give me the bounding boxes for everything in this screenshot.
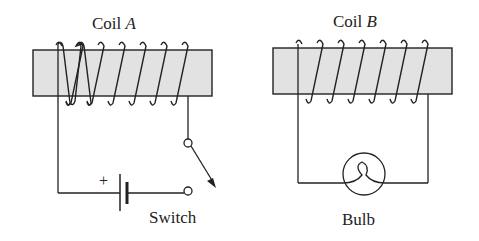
switch-arrow-head <box>207 178 216 188</box>
switch-label: Switch <box>149 208 196 228</box>
battery-plus-label: + <box>99 172 108 190</box>
bulb-circle <box>343 153 385 195</box>
coil-a-label: Coil A <box>92 14 136 34</box>
bulb-label: Bulb <box>342 210 375 230</box>
switch-lever <box>191 146 213 182</box>
switch-contact-bottom <box>184 187 192 195</box>
coil-b-label: Coil B <box>333 12 377 32</box>
switch-contact-top <box>184 139 192 147</box>
circuit-wiring <box>0 0 479 241</box>
